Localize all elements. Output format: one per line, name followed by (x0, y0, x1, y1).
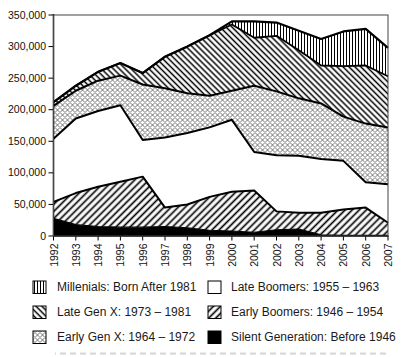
legend-label-millenials: Millenials: Born After 1981 (57, 280, 197, 294)
y-tick-label: 100,000 (8, 166, 46, 178)
x-tick-label: 2006 (360, 243, 372, 267)
x-tick-label: 2004 (315, 243, 327, 267)
legend-item-millenials: Millenials: Born After 1981 (33, 280, 197, 294)
legend-swatch-early-genx-icon (33, 331, 46, 344)
x-tick-label: 2003 (293, 243, 305, 267)
legend-label-late-genx: Late Gen X: 1973 – 1981 (57, 305, 191, 319)
x-tick-label: 1992 (48, 243, 60, 267)
legend-swatch-late-boomers-icon (208, 281, 221, 294)
x-tick-label: 1994 (92, 243, 104, 267)
x-tick-label: 2005 (337, 243, 349, 267)
x-tick-label: 2002 (271, 243, 283, 267)
x-tick-label: 1999 (204, 243, 216, 267)
legend-item-early-boomers: Early Boomers: 1946 – 1954 (208, 305, 383, 319)
y-tick-label: 0 (40, 230, 46, 242)
x-tick-label: 2000 (226, 243, 238, 267)
legend-label-early-boomers: Early Boomers: 1946 – 1954 (231, 305, 383, 319)
chart-legend: Millenials: Born After 1981 Late Gen X: … (33, 280, 396, 344)
generations-stacked-area-chart: 050,000100,000150,000200,000250,000300,0… (0, 0, 407, 357)
y-tick-label: 150,000 (8, 135, 46, 147)
x-tick-label: 2001 (248, 243, 260, 267)
legend-item-late-boomers: Late Boomers: 1955 – 1963 (208, 280, 379, 294)
legend-label-late-boomers: Late Boomers: 1955 – 1963 (231, 280, 379, 294)
legend-item-early-genx: Early Gen X: 1964 – 1972 (33, 330, 195, 344)
x-tick-label: 1996 (137, 243, 149, 267)
legend-label-early-genx: Early Gen X: 1964 – 1972 (57, 330, 195, 344)
legend-swatch-early-boomers-icon (208, 306, 221, 319)
y-tick-label: 250,000 (8, 72, 46, 84)
x-tick-label: 2007 (382, 243, 394, 267)
x-tick-label: 1997 (159, 243, 171, 267)
legend-item-late-genx: Late Gen X: 1973 – 1981 (33, 305, 191, 319)
legend-swatch-silent-icon (208, 331, 221, 344)
y-tick-label: 350,000 (8, 9, 46, 21)
chart-areas (54, 21, 389, 236)
y-tick-label: 300,000 (8, 40, 46, 52)
y-tick-label: 200,000 (8, 103, 46, 115)
legend-swatch-late-genx-icon (33, 306, 46, 319)
y-tick-label: 50,000 (14, 198, 46, 210)
legend-item-silent: Silent Generation: Before 1946 (208, 330, 396, 344)
x-tick-label: 1995 (114, 243, 126, 267)
x-tick-label: 1993 (70, 243, 82, 267)
legend-label-silent: Silent Generation: Before 1946 (231, 330, 396, 344)
legend-swatch-millenials-icon (33, 281, 46, 294)
cutoff-caption-fragment (55, 353, 387, 357)
x-tick-label: 1998 (181, 243, 193, 267)
